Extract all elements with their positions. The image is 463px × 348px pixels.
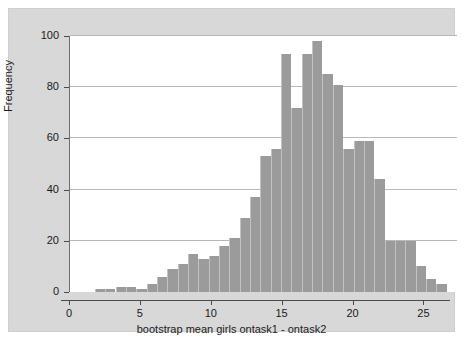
y-tick-label: 40: [25, 184, 59, 195]
histogram-bar: [395, 241, 405, 292]
histogram-bar: [116, 287, 126, 292]
histogram-bar: [219, 246, 229, 292]
histogram-bar: [426, 279, 436, 292]
y-tick-label: 0: [25, 286, 59, 297]
x-axis-line: [61, 300, 450, 301]
x-axis-title: bootstrap mean girls ontask1 - ontask2: [8, 323, 455, 335]
y-axis-title: Frequency: [2, 60, 14, 112]
y-tick-mark: [64, 190, 69, 191]
histogram-bar: [405, 241, 415, 292]
histogram-bar: [271, 149, 281, 292]
x-tick-label: 0: [54, 307, 84, 319]
histogram-bar: [105, 289, 115, 292]
histogram-bars: [70, 36, 457, 292]
graph-region: 020406080100 Frequency 0510152025 bootst…: [8, 8, 455, 332]
histogram-bar: [167, 269, 177, 292]
y-tick-label: 80: [25, 81, 59, 92]
histogram-bar: [302, 54, 312, 292]
histogram-bar: [260, 156, 270, 292]
histogram-bar: [281, 54, 291, 292]
plot-area: [69, 36, 457, 292]
histogram-bar: [126, 287, 136, 292]
histogram-bar: [354, 141, 364, 292]
histogram-bar: [374, 179, 384, 292]
histogram-bar: [178, 264, 188, 292]
histogram-bar: [157, 277, 167, 292]
histogram-bar: [136, 289, 146, 292]
histogram-bar: [250, 197, 260, 292]
histogram-bar: [436, 284, 446, 292]
y-tick-mark: [64, 138, 69, 139]
histogram-bar: [312, 41, 322, 292]
histogram-bar: [240, 218, 250, 292]
y-tick-label: 100: [25, 30, 59, 41]
histogram-bar: [364, 141, 374, 292]
histogram-bar: [147, 284, 157, 292]
histogram-bar: [95, 289, 105, 292]
x-tick-mark: [282, 300, 283, 305]
x-tick-label: 5: [125, 307, 155, 319]
x-tick-mark: [69, 300, 70, 305]
x-tick-mark: [423, 300, 424, 305]
histogram-bar: [333, 85, 343, 292]
x-tick-mark: [353, 300, 354, 305]
histogram-bar: [291, 108, 301, 292]
histogram-bar: [322, 74, 332, 292]
histogram-bar: [343, 149, 353, 292]
x-tick-mark: [211, 300, 212, 305]
histogram-bar: [416, 266, 426, 292]
histogram-bar: [385, 241, 395, 292]
histogram-screenshot: 020406080100 Frequency 0510152025 bootst…: [0, 0, 463, 348]
histogram-bar: [188, 254, 198, 292]
x-tick-mark: [140, 300, 141, 305]
histogram-bar: [209, 256, 219, 292]
y-tick-mark: [64, 36, 69, 37]
histogram-bar: [198, 259, 208, 292]
x-tick-label: 25: [408, 307, 438, 319]
y-tick-label: 20: [25, 235, 59, 246]
y-tick-label: 60: [25, 132, 59, 143]
x-tick-label: 10: [196, 307, 226, 319]
y-tick-mark: [64, 292, 69, 293]
x-tick-label: 20: [338, 307, 368, 319]
y-tick-mark: [64, 241, 69, 242]
x-tick-label: 15: [267, 307, 297, 319]
histogram-bar: [229, 238, 239, 292]
y-tick-mark: [64, 87, 69, 88]
